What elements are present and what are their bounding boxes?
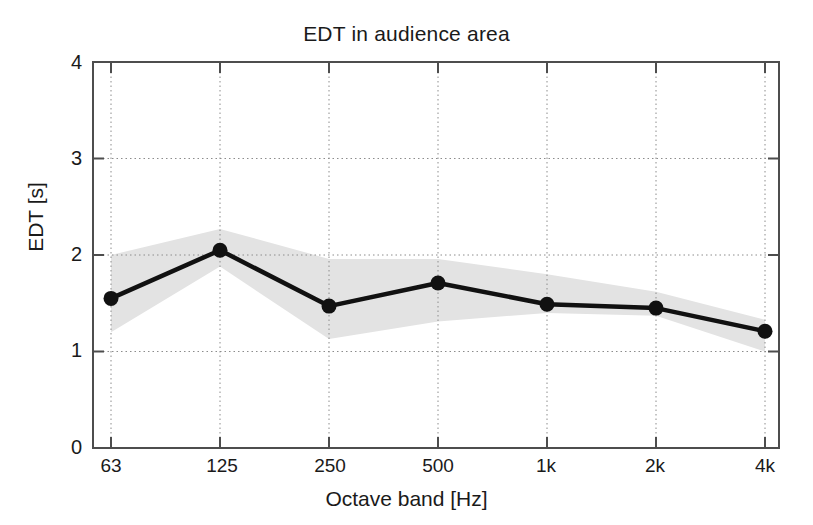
data-point-2k	[649, 301, 664, 316]
data-point-63	[104, 291, 119, 306]
data-point-1k	[540, 297, 555, 312]
data-point-4k	[758, 324, 773, 339]
data-point-500	[431, 276, 446, 291]
chart-figure: EDT in audience area EDT [s] Octave band…	[0, 0, 813, 525]
data-point-125	[213, 243, 228, 258]
plot-canvas	[0, 0, 813, 525]
data-point-250	[322, 299, 337, 314]
